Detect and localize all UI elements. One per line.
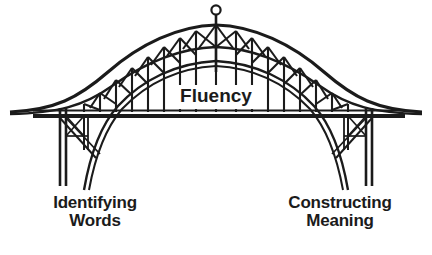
label-identifying-words-line2: Words	[30, 212, 160, 230]
left-pier-tower	[60, 108, 100, 186]
label-constructing-meaning-line1: Constructing	[288, 193, 391, 212]
label-fluency-text: Fluency	[173, 85, 259, 109]
label-identifying-words: Identifying Words	[30, 194, 160, 231]
label-constructing-meaning: Constructing Meaning	[260, 194, 420, 231]
bridge-deck	[33, 111, 405, 117]
label-constructing-meaning-line2: Meaning	[260, 212, 420, 230]
label-fluency: Fluency	[0, 85, 432, 109]
label-identifying-words-line1: Identifying	[53, 193, 137, 212]
right-pier-tower	[332, 108, 372, 186]
bridge-diagram: Fluency Identifying Words Constructing M…	[0, 0, 432, 255]
circle-finial-icon	[211, 5, 220, 14]
